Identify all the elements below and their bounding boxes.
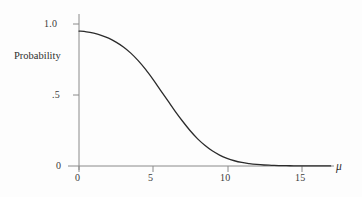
y-tick-label-0.5: .5 [52,89,60,100]
x-tick-label-5: 5 [148,172,153,183]
x-tick-label-10: 10 [220,172,230,183]
figure-container: Probability μ 1.0 .5 0 0 5 10 15 [0,0,362,197]
y-axis-title: Probability [14,50,61,61]
x-axis-title: μ [336,160,342,172]
x-tick-label-15: 15 [295,172,305,183]
y-tick-label-0: 0 [56,160,61,171]
probability-curve [79,31,331,166]
x-tick-label-0: 0 [75,172,80,183]
y-tick-label-1.0: 1.0 [44,18,57,29]
